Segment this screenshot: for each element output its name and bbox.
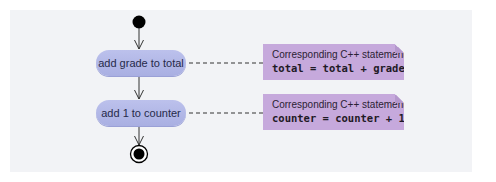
- note-total-statement: Corresponding C++ statement: total = tot…: [263, 44, 404, 80]
- note-caption: Corresponding C++ statement:: [272, 48, 404, 61]
- action-label: add 1 to counter: [101, 107, 181, 119]
- transition-arrow-icon: [135, 77, 144, 99]
- note-code: counter = counter + 1;: [272, 111, 404, 126]
- action-label: add grade to total: [98, 57, 184, 69]
- action-add-grade-to-total: add grade to total: [96, 50, 186, 76]
- diagram-edges: [0, 0, 496, 182]
- transition-arrow-icon: [135, 127, 144, 145]
- final-state-icon: [131, 146, 148, 163]
- transition-arrow-icon: [135, 28, 144, 49]
- note-caption: Corresponding C++ statement:: [272, 98, 404, 111]
- initial-state-icon: [133, 16, 146, 29]
- note-counter-statement: Corresponding C++ statement: counter = c…: [263, 94, 404, 130]
- action-add-1-to-counter: add 1 to counter: [96, 100, 186, 126]
- note-code: total = total + grade;: [272, 61, 404, 76]
